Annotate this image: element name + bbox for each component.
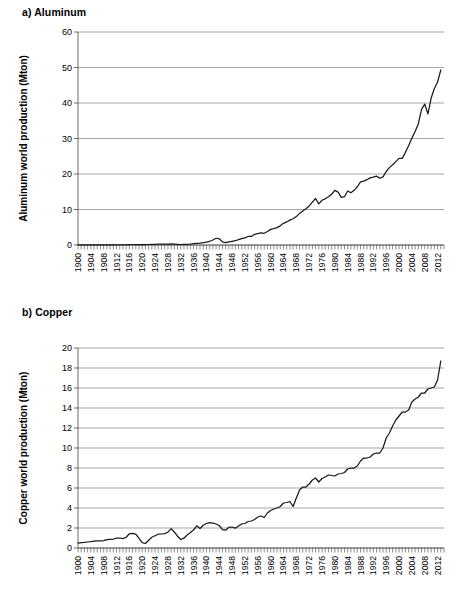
x-axis-tick-label-group: 1984 xyxy=(343,253,353,272)
y-axis-tick-label: 18 xyxy=(62,363,72,373)
y-axis-tick-label: 10 xyxy=(62,443,72,453)
x-axis-tick-label-group: 1980 xyxy=(330,253,340,272)
x-axis-tick-label: 1908 xyxy=(99,556,109,575)
y-axis-tick-label: 6 xyxy=(67,483,72,493)
x-axis-tick-label-group: 1920 xyxy=(137,556,147,575)
x-axis-tick-label: 1936 xyxy=(189,556,199,575)
x-axis-tick-label: 1992 xyxy=(368,556,378,575)
y-axis-tick-label: 40 xyxy=(62,98,72,108)
x-axis-tick-label: 1976 xyxy=(317,253,327,272)
x-axis-tick-label-group: 1992 xyxy=(368,253,378,272)
x-axis-tick-label-group: 1964 xyxy=(278,253,288,272)
x-axis-tick-label: 1984 xyxy=(343,556,353,575)
x-axis-tick-label: 1972 xyxy=(304,253,314,272)
x-axis-tick-label-group: 2004 xyxy=(407,253,417,272)
x-axis-tick-label-group: 1936 xyxy=(189,253,199,272)
x-axis-tick-label-group: 1960 xyxy=(266,253,276,272)
x-axis-tick-label: 1904 xyxy=(86,253,96,272)
x-axis-tick-label: 1916 xyxy=(124,556,134,575)
x-axis-tick-label-group: 1992 xyxy=(368,556,378,575)
x-axis-tick-label: 1992 xyxy=(368,253,378,272)
x-axis-tick-label-group: 1900 xyxy=(73,556,83,575)
x-axis-tick-label: 1940 xyxy=(201,253,211,272)
y-axis-title: Aluminum world production (Mton) xyxy=(18,55,29,222)
x-axis-tick-label: 1912 xyxy=(112,253,122,272)
x-axis-tick-label-group: 1988 xyxy=(356,556,366,575)
x-axis-tick-label: 1964 xyxy=(278,556,288,575)
x-axis-tick-label: 1948 xyxy=(227,556,237,575)
x-axis-tick-label: 1920 xyxy=(137,556,147,575)
x-axis-tick-label: 1904 xyxy=(86,556,96,575)
x-axis-tick-label-group: 2000 xyxy=(394,556,404,575)
x-axis-tick-label: 1960 xyxy=(266,556,276,575)
y-axis-tick-label: 20 xyxy=(62,343,72,353)
data-series-line xyxy=(78,70,441,245)
x-axis-tick-label: 1900 xyxy=(73,253,83,272)
x-axis-tick-label-group: 1932 xyxy=(176,556,186,575)
x-axis-tick-label: 2012 xyxy=(433,253,443,272)
x-axis-tick-label-group: 1928 xyxy=(163,556,173,575)
x-axis-tick-label: 1956 xyxy=(253,556,263,575)
x-axis-tick-label-group: 1988 xyxy=(356,253,366,272)
x-axis-tick-label: 1920 xyxy=(137,253,147,272)
x-axis-tick-label-group: 1900 xyxy=(73,253,83,272)
x-axis-tick-label: 1980 xyxy=(330,556,340,575)
x-axis-tick-label-group: 1972 xyxy=(304,253,314,272)
x-axis-tick-label: 1964 xyxy=(278,253,288,272)
x-axis-tick-label: 1924 xyxy=(150,253,160,272)
x-axis-tick-label-group: 2004 xyxy=(407,556,417,575)
x-axis-tick-label-group: 2008 xyxy=(420,253,430,272)
y-axis-tick-label: 50 xyxy=(62,63,72,73)
x-axis-tick-label-group: 1908 xyxy=(99,556,109,575)
y-axis-tick-label: 4 xyxy=(67,503,72,513)
x-axis-tick-label: 1976 xyxy=(317,556,327,575)
chart-aluminum: 0102030405060190019041908191219161920192… xyxy=(0,0,458,300)
panel-copper: b) Copper 024681012141618201900190419081… xyxy=(0,300,458,603)
x-axis-tick-label: 1908 xyxy=(99,253,109,272)
x-axis-tick-label: 1952 xyxy=(240,556,250,575)
x-axis-tick-label-group: 1948 xyxy=(227,253,237,272)
x-axis-tick-label-group: 1976 xyxy=(317,556,327,575)
x-axis-tick-label-group: 1940 xyxy=(201,253,211,272)
chart-copper: 0246810121416182019001904190819121916192… xyxy=(0,300,458,603)
x-axis-tick-label: 1988 xyxy=(356,556,366,575)
x-axis-tick-label-group: 2000 xyxy=(394,253,404,272)
x-axis-tick-label: 1996 xyxy=(381,253,391,272)
x-axis-tick-label: 1996 xyxy=(381,556,391,575)
y-axis-title: Copper world production (Mton) xyxy=(18,372,29,525)
x-axis-tick-label-group: 1952 xyxy=(240,556,250,575)
y-axis-tick-label: 16 xyxy=(62,383,72,393)
x-axis-tick-label: 1944 xyxy=(214,556,224,575)
x-axis-tick-label-group: 1920 xyxy=(137,253,147,272)
x-axis-tick-label-group: 1996 xyxy=(381,556,391,575)
x-axis-tick-label-group: 1904 xyxy=(86,556,96,575)
x-axis-tick-label-group: 1956 xyxy=(253,253,263,272)
y-axis-tick-label: 0 xyxy=(67,240,72,250)
x-axis-tick-label: 1932 xyxy=(176,556,186,575)
x-axis-tick-label-group: 1912 xyxy=(112,253,122,272)
x-axis-tick-label-group: 1968 xyxy=(291,556,301,575)
x-axis-tick-label-group: 1912 xyxy=(112,556,122,575)
y-axis-tick-label: 20 xyxy=(62,169,72,179)
x-axis-tick-label: 1940 xyxy=(201,556,211,575)
x-axis-tick-label-group: 1932 xyxy=(176,253,186,272)
x-axis-tick-label: 1916 xyxy=(124,253,134,272)
x-axis-tick-label: 1928 xyxy=(163,556,173,575)
panel-aluminum: a) Aluminum 0102030405060190019041908191… xyxy=(0,0,458,300)
x-axis-tick-label: 1932 xyxy=(176,253,186,272)
x-axis-tick-label: 2008 xyxy=(420,253,430,272)
x-axis-tick-label: 2000 xyxy=(394,556,404,575)
x-axis-tick-label: 1968 xyxy=(291,556,301,575)
x-axis-tick-label-group: 1984 xyxy=(343,556,353,575)
x-axis-tick-label-group: 1940 xyxy=(201,556,211,575)
y-axis-tick-label: 12 xyxy=(62,423,72,433)
chart-copper-svg: 0246810121416182019001904190819121916192… xyxy=(0,300,458,603)
x-axis-tick-label: 1980 xyxy=(330,253,340,272)
x-axis-tick-label-group: 1972 xyxy=(304,556,314,575)
x-axis-tick-label-group: 1944 xyxy=(214,556,224,575)
x-axis-tick-label-group: 1924 xyxy=(150,556,160,575)
data-series-line xyxy=(78,361,441,544)
x-axis-tick-label-group: 2008 xyxy=(420,556,430,575)
x-axis-tick-label: 1956 xyxy=(253,253,263,272)
x-axis-tick-label: 1948 xyxy=(227,253,237,272)
